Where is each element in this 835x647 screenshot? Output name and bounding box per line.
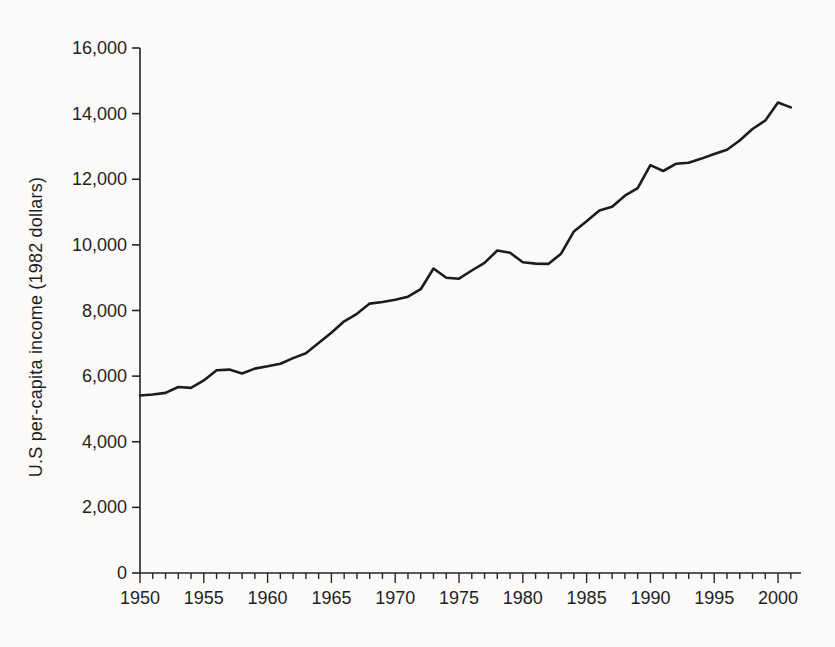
x-tick-label: 1950 — [120, 588, 160, 608]
x-tick-label: 1965 — [311, 588, 351, 608]
y-tick-label: 8,000 — [82, 301, 127, 321]
y-tick-label: 16,000 — [72, 38, 127, 58]
x-tick-label: 1975 — [439, 588, 479, 608]
y-tick-label: 12,000 — [72, 169, 127, 189]
axes — [140, 48, 801, 573]
x-tick-label: 1970 — [375, 588, 415, 608]
y-tick-label: 10,000 — [72, 235, 127, 255]
y-tick-label: 2,000 — [82, 497, 127, 517]
chart-figure: 02,0004,0006,0008,00010,00012,00014,0001… — [0, 0, 835, 647]
x-tick-label: 2000 — [758, 588, 798, 608]
x-tick-label: 1980 — [503, 588, 543, 608]
y-axis: 02,0004,0006,0008,00010,00012,00014,0001… — [72, 38, 140, 583]
y-axis-title: U.S per-capita income (1982 dollars) — [26, 177, 47, 477]
income-line-chart: 02,0004,0006,0008,00010,00012,00014,0001… — [0, 0, 835, 647]
y-tick-label: 4,000 — [82, 432, 127, 452]
y-tick-label: 0 — [117, 563, 127, 583]
x-axis: 1950195519601965197019751980198519901995… — [120, 573, 798, 608]
x-tick-label: 1955 — [184, 588, 224, 608]
x-tick-label: 1990 — [630, 588, 670, 608]
y-tick-label: 14,000 — [72, 104, 127, 124]
income-series-line — [140, 103, 791, 396]
x-tick-label: 1960 — [248, 588, 288, 608]
x-tick-label: 1995 — [694, 588, 734, 608]
x-tick-label: 1985 — [567, 588, 607, 608]
y-tick-label: 6,000 — [82, 366, 127, 386]
